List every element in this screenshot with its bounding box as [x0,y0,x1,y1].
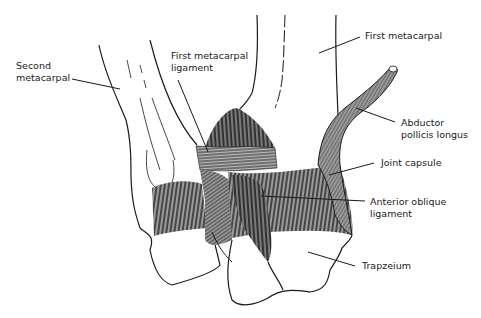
label-second-metacarpal: Second metacarpal [16,60,70,84]
second-metacarpal-capsule [152,181,207,236]
label-first-metacarpal-ligament: First metacarpal ligament [171,50,248,74]
label-joint-capsule: Joint capsule [381,157,442,169]
leader-trapzeium [308,252,355,266]
leader-abductor [356,108,395,122]
leader-first-metacarpal-ligament [178,80,208,152]
leader-second-metacarpal [72,79,120,89]
tendon-cut-end [389,66,397,72]
leader-first-metacarpal [319,37,360,53]
trapezium-bone [228,235,352,305]
label-first-metacarpal: First metacarpal [365,30,442,42]
first-metacarpal-base-ligament [205,108,275,148]
first-metacarpal-ligament-band [196,146,277,171]
label-abductor-pollicis-longus: Abductor pollicis longus [401,117,468,141]
label-trapzeium: Trapzeium [362,260,411,272]
label-anterior-oblique-ligament: Anterior oblique ligament [370,196,446,220]
